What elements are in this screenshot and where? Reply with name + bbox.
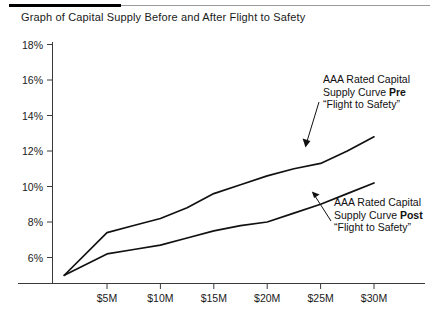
series-line-pre xyxy=(64,137,374,275)
y-tick-label-6: 6% xyxy=(28,252,43,264)
x-tick-label-10m: $10M xyxy=(147,292,173,304)
annotation-post-curve: AAA Rated Capital Supply Curve Post “Fli… xyxy=(334,196,423,234)
y-axis-ticks xyxy=(47,45,53,258)
annotation-post-line2-prefix: Supply Curve xyxy=(334,209,400,221)
annotation-pre-line2-prefix: Supply Curve xyxy=(323,86,389,98)
y-axis-tick-labels: 18% 16% 14% 12% 10% 8% 6% xyxy=(22,39,43,264)
annotation-pre-line1: AAA Rated Capital xyxy=(323,73,410,86)
annotation-post-line3: “Flight to Safety” xyxy=(334,221,423,234)
annotation-post-line1: AAA Rated Capital xyxy=(334,196,423,209)
line-chart-plot: 18% 16% 14% 12% 10% 8% 6% $5M $10M $15M … xyxy=(0,0,438,316)
pre-arrow-shaft xyxy=(307,102,320,143)
annotation-arrow-pre xyxy=(303,102,319,148)
post-arrow-shaft xyxy=(315,196,331,221)
y-tick-label-10: 10% xyxy=(22,181,43,193)
annotation-pre-emphasis: Pre xyxy=(389,86,406,98)
y-tick-label-14: 14% xyxy=(22,110,43,122)
x-tick-label-25m: $25M xyxy=(307,292,333,304)
y-tick-label-8: 8% xyxy=(28,216,43,228)
y-tick-label-12: 12% xyxy=(22,145,43,157)
series-line-post xyxy=(64,183,374,275)
y-tick-label-18: 18% xyxy=(22,39,43,51)
x-tick-label-15m: $15M xyxy=(201,292,227,304)
x-axis-tick-labels: $5M $10M $15M $20M $25M $30M xyxy=(97,292,387,304)
x-tick-label-20m: $20M xyxy=(254,292,280,304)
y-tick-label-16: 16% xyxy=(22,74,43,86)
annotation-post-line2: Supply Curve Post xyxy=(334,209,423,222)
annotation-pre-curve: AAA Rated Capital Supply Curve Pre “Flig… xyxy=(323,73,410,111)
x-tick-label-30m: $30M xyxy=(361,292,387,304)
annotation-post-emphasis: Post xyxy=(400,209,423,221)
annotation-pre-line2: Supply Curve Pre xyxy=(323,86,410,99)
x-axis-ticks xyxy=(107,284,374,290)
chart-figure: Graph of Capital Supply Before and After… xyxy=(0,0,438,316)
pre-arrow-head xyxy=(303,139,311,148)
x-tick-label-5m: $5M xyxy=(97,292,117,304)
annotation-pre-line3: “Flight to Safety” xyxy=(323,98,410,111)
